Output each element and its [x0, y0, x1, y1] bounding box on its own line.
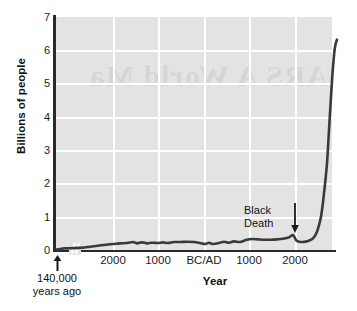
origin-annotation-line2: years ago	[8, 285, 106, 298]
gridline-horizontal	[56, 117, 334, 119]
y-tick-label: 7	[6, 11, 50, 23]
y-tick-label: 3	[6, 144, 50, 156]
gridline-vertical	[158, 17, 160, 250]
y-tick-label: 0	[6, 244, 50, 256]
black-death-annotation: Black Death	[244, 204, 273, 230]
black-death-line1: Black	[244, 204, 273, 217]
y-tick-label: 6	[6, 44, 50, 56]
black-death-line2: Death	[244, 217, 273, 230]
y-tick-label: 5	[6, 77, 50, 89]
x-axis-line	[54, 250, 336, 252]
y-tick-label: 4	[6, 111, 50, 123]
down-arrow-icon	[290, 203, 300, 233]
x-tick-label: 2000	[260, 254, 330, 266]
gridline-horizontal	[56, 83, 334, 85]
gridline-vertical	[113, 17, 115, 250]
gridline-vertical	[332, 17, 334, 250]
y-axis-title: Billions of people	[15, 41, 27, 171]
gridline-horizontal	[56, 183, 334, 185]
y-tick-label: 2	[6, 177, 50, 189]
origin-annotation: 140,000 years ago	[8, 272, 106, 298]
gridline-horizontal	[56, 50, 334, 52]
gridline-horizontal	[56, 150, 334, 152]
background-watermark: ARS A World Ma	[68, 59, 328, 93]
y-axis-line	[53, 15, 56, 252]
y-tick-label: 1	[6, 211, 50, 223]
population-growth-chart: ARS A World Ma 7 6 5 4 3 2 1 0 2000 1000…	[0, 0, 357, 311]
origin-annotation-line1: 140,000	[8, 272, 106, 285]
up-arrow-icon	[53, 255, 62, 271]
x-axis-title: Year	[175, 275, 255, 287]
gridline-vertical	[204, 17, 206, 250]
axis-break-marker	[69, 242, 81, 255]
